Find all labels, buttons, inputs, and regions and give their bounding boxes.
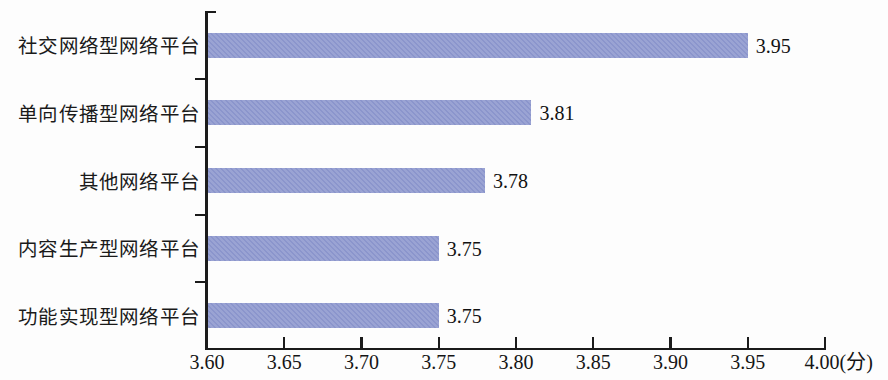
x-axis-tick-label: 3.75 <box>421 352 456 372</box>
x-axis-tick <box>747 337 749 348</box>
x-axis-tick <box>438 337 440 348</box>
bar <box>207 303 439 328</box>
horizontal-bar-chart: 社交网络型网络平台 单向传播型网络平台 其他网络平台 内容生产型网络平台 功能实… <box>0 0 888 380</box>
x-axis-tick-label: 3.90 <box>653 352 688 372</box>
bar-value-label: 3.75 <box>447 306 482 326</box>
y-axis-tick <box>195 281 206 283</box>
x-axis-tick-label: 3.95 <box>730 352 765 372</box>
bar <box>207 236 439 261</box>
category-label: 内容生产型网络平台 <box>0 240 200 260</box>
x-axis-tick-label: 4.00(分) <box>805 352 873 372</box>
x-axis-tick <box>592 337 594 348</box>
y-axis-line <box>205 11 208 350</box>
x-axis-tick <box>669 337 671 348</box>
category-label: 其他网络平台 <box>0 173 200 193</box>
bar-value-label: 3.81 <box>539 103 574 123</box>
x-axis-tick <box>515 337 517 348</box>
bar-value-label: 3.75 <box>447 239 482 259</box>
y-axis-tick <box>195 146 206 148</box>
x-axis-tick <box>206 337 208 348</box>
category-label: 社交网络型网络平台 <box>0 37 200 57</box>
x-axis-tick-label: 3.80 <box>499 352 534 372</box>
category-label: 单向传播型网络平台 <box>0 105 200 125</box>
x-axis-tick-label: 3.85 <box>576 352 611 372</box>
bar-value-label: 3.78 <box>493 171 528 191</box>
x-axis-tick <box>283 337 285 348</box>
x-axis-tick-label: 3.60 <box>190 352 225 372</box>
x-axis-tick-label: 3.70 <box>344 352 379 372</box>
category-label: 功能实现型网络平台 <box>0 308 200 328</box>
y-axis-tick <box>195 214 206 216</box>
bar-value-label: 3.95 <box>756 36 791 56</box>
bar <box>207 100 531 125</box>
bar <box>207 168 485 193</box>
x-axis-tick <box>360 337 362 348</box>
y-axis-tick <box>195 78 206 80</box>
y-axis-top-cap <box>205 11 216 13</box>
bar <box>207 33 748 58</box>
x-axis-tick <box>824 337 826 348</box>
x-axis-tick-label: 3.65 <box>267 352 302 372</box>
